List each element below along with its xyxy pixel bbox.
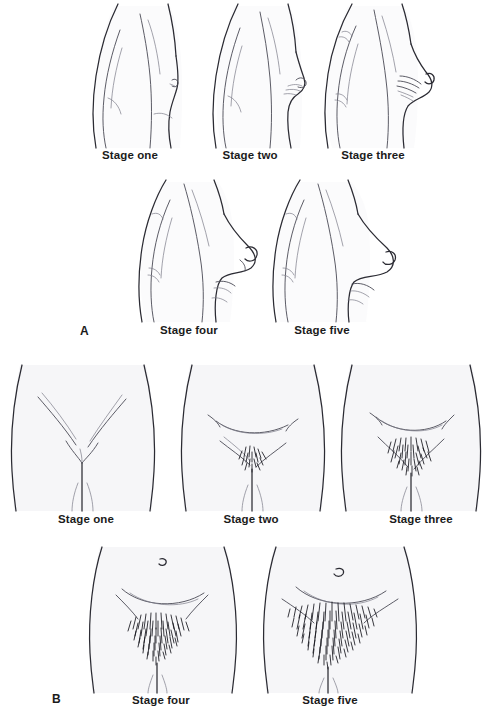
breast-stage-two-illustration <box>188 2 320 150</box>
pubic-stage-five-illustration <box>252 545 428 695</box>
breast-stage-three-illustration <box>308 2 458 150</box>
caption-breast-stage-one: Stage one <box>102 149 158 161</box>
panel-letter-a: A <box>80 324 89 338</box>
panel-letter-b: B <box>52 692 61 706</box>
panel-a-breast-development: Stage one Stage two <box>0 0 492 355</box>
pubic-stage-two-illustration <box>172 363 334 513</box>
caption-breast-stage-three: Stage three <box>341 149 405 161</box>
pubic-stage-one-illustration <box>2 363 164 513</box>
pubic-stage-four-illustration <box>80 545 246 695</box>
caption-pubic-stage-two: Stage two <box>223 513 278 525</box>
caption-breast-stage-four: Stage four <box>160 324 218 336</box>
caption-pubic-stage-one: Stage one <box>58 513 114 525</box>
breast-stage-four-illustration <box>122 178 274 324</box>
breast-stage-five-illustration <box>256 178 408 324</box>
pubic-stage-three-illustration <box>332 363 490 513</box>
caption-breast-stage-five: Stage five <box>294 324 349 336</box>
panel-b-pubic-hair-development: Stage one <box>0 355 492 720</box>
caption-breast-stage-two: Stage two <box>222 149 277 161</box>
caption-pubic-stage-four: Stage four <box>132 694 190 706</box>
breast-stage-one-illustration <box>62 2 202 150</box>
tanner-stages-figure: Stage one Stage two <box>0 0 492 720</box>
caption-pubic-stage-three: Stage three <box>389 513 453 525</box>
caption-pubic-stage-five: Stage five <box>302 694 357 706</box>
